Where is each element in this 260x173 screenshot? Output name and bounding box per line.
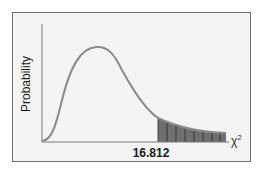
y-axis-label: Probability <box>19 56 33 112</box>
chi-square-curve <box>42 47 226 141</box>
critical-value-label: 16.812 <box>133 146 170 160</box>
chart-plot <box>0 0 260 173</box>
x-axis-label-superscript: 2 <box>237 133 241 142</box>
x-axis-label: χ2 <box>231 133 242 148</box>
